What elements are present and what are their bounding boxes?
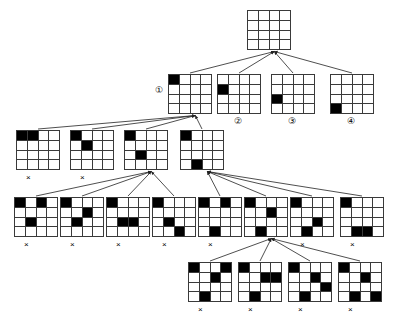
board-cell-empty <box>169 104 180 114</box>
board-cell-empty <box>82 131 93 141</box>
board-cell-empty <box>153 227 164 237</box>
board-cell-empty <box>291 227 302 237</box>
board-cell-filled <box>272 95 283 105</box>
board-cell-empty <box>93 218 104 228</box>
board-cell-empty <box>331 85 342 95</box>
board-node[interactable] <box>60 197 104 237</box>
board-node[interactable] <box>152 197 196 237</box>
board-cell-empty <box>339 292 350 302</box>
board-cell-empty <box>181 151 192 161</box>
board-cell-empty <box>17 141 28 151</box>
board-grid <box>60 197 104 237</box>
dead-end-marker: × <box>26 174 31 182</box>
board-node[interactable] <box>16 130 60 170</box>
board-node[interactable] <box>330 74 374 114</box>
board-cell-empty <box>39 141 50 151</box>
board-cell-empty <box>363 208 374 218</box>
board-cell-empty <box>277 227 288 237</box>
board-node[interactable] <box>180 130 224 170</box>
board-cell-empty <box>267 198 278 208</box>
board-cell-empty <box>304 95 315 105</box>
board-cell-empty <box>83 227 94 237</box>
board-cell-empty <box>294 75 305 85</box>
tree-edge <box>38 116 195 130</box>
board-node[interactable] <box>288 262 332 302</box>
board-cell-empty <box>28 160 39 170</box>
board-node[interactable] <box>198 197 242 237</box>
board-cell-empty <box>239 273 250 283</box>
board-node[interactable] <box>70 130 114 170</box>
board-node[interactable] <box>247 10 291 50</box>
board-cell-empty <box>17 160 28 170</box>
board-node[interactable] <box>188 262 232 302</box>
board-cell-filled <box>83 208 94 218</box>
tree-edge <box>207 172 312 197</box>
board-cell-empty <box>93 198 104 208</box>
board-cell-filled <box>363 227 374 237</box>
board-node[interactable] <box>244 197 288 237</box>
board-grid <box>290 197 334 237</box>
board-cell-empty <box>294 85 305 95</box>
board-cell-empty <box>139 208 150 218</box>
board-cell-empty <box>245 227 256 237</box>
board-cell-empty <box>103 151 114 161</box>
board-cell-empty <box>147 160 158 170</box>
board-cell-empty <box>139 198 150 208</box>
board-cell-empty <box>203 151 214 161</box>
board-cell-empty <box>294 104 305 114</box>
board-node[interactable] <box>217 74 261 114</box>
board-cell-empty <box>229 104 240 114</box>
board-cell-empty <box>342 75 353 85</box>
board-cell-empty <box>352 218 363 228</box>
board-cell-filled <box>245 198 256 208</box>
board-cell-empty <box>180 95 191 105</box>
board-cell-filled <box>221 263 232 273</box>
board-cell-empty <box>37 227 48 237</box>
board-node[interactable] <box>290 197 334 237</box>
board-cell-filled <box>267 208 278 218</box>
board-cell-empty <box>71 151 82 161</box>
board-node[interactable] <box>14 197 58 237</box>
board-cell-filled <box>175 227 186 237</box>
board-cell-empty <box>231 227 242 237</box>
board-cell-filled <box>291 198 302 208</box>
board-cell-empty <box>103 141 114 151</box>
board-grid <box>124 130 168 170</box>
board-cell-empty <box>192 131 203 141</box>
board-cell-empty <box>47 218 58 228</box>
board-grid <box>288 262 332 302</box>
board-node[interactable] <box>340 197 384 237</box>
board-cell-empty <box>15 218 26 228</box>
board-cell-empty <box>341 208 352 218</box>
board-cell-empty <box>175 198 186 208</box>
board-node[interactable] <box>168 74 212 114</box>
board-cell-empty <box>352 208 363 218</box>
board-cell-empty <box>93 208 104 218</box>
board-cell-filled <box>256 227 267 237</box>
board-cell-empty <box>213 141 224 151</box>
board-grid <box>188 262 232 302</box>
node-number-label: ② <box>234 117 242 126</box>
board-node[interactable] <box>124 130 168 170</box>
board-cell-empty <box>313 227 324 237</box>
board-cell-empty <box>311 292 322 302</box>
board-cell-empty <box>248 40 259 50</box>
board-node[interactable] <box>338 262 382 302</box>
board-cell-empty <box>218 95 229 105</box>
board-cell-empty <box>83 218 94 228</box>
board-grid <box>338 262 382 302</box>
board-cell-empty <box>192 141 203 151</box>
board-node[interactable] <box>106 197 150 237</box>
board-cell-empty <box>185 198 196 208</box>
board-grid <box>16 130 60 170</box>
board-cell-filled <box>136 151 147 161</box>
board-cell-empty <box>83 198 94 208</box>
board-grid <box>238 262 282 302</box>
board-cell-empty <box>291 208 302 218</box>
board-cell-empty <box>267 227 278 237</box>
board-node[interactable] <box>238 262 282 302</box>
board-cell-empty <box>210 208 221 218</box>
board-cell-filled <box>313 218 324 228</box>
board-cell-filled <box>321 283 332 293</box>
board-node[interactable] <box>271 74 315 114</box>
